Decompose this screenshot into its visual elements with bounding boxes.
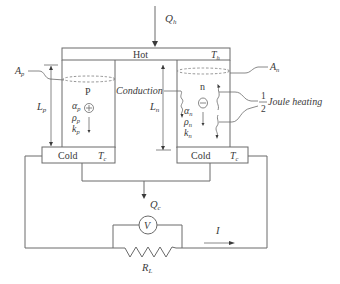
p-leg bbox=[62, 60, 115, 148]
joule-fraction-num: 1 bbox=[261, 91, 266, 101]
cold-side-connector bbox=[82, 163, 210, 181]
minus-carrier-icon bbox=[199, 98, 208, 108]
circuit-wire-right bbox=[183, 156, 267, 248]
joule-fraction-den: 2 bbox=[261, 104, 266, 114]
heat-out-arrow bbox=[142, 181, 147, 199]
conduction-leader bbox=[164, 91, 183, 116]
n-area-leader bbox=[230, 67, 268, 73]
p-alpha: αp bbox=[72, 100, 81, 112]
hot-label: Hot bbox=[133, 49, 148, 60]
joule-heating-label: Joule heating bbox=[268, 96, 322, 107]
n-leg-label: n bbox=[200, 81, 205, 92]
current-arrow bbox=[204, 241, 235, 245]
n-area-label: An bbox=[269, 61, 279, 73]
p-current-arrow bbox=[88, 117, 91, 133]
joule-leader-top bbox=[219, 92, 258, 101]
p-leg-label: P bbox=[85, 86, 91, 97]
heat-in-label: Qh bbox=[165, 12, 177, 26]
n-length-label: Ln bbox=[149, 101, 160, 114]
plus-carrier-icon bbox=[85, 104, 94, 113]
voltmeter-wire-right bbox=[157, 225, 182, 248]
joule-arrowhead-down bbox=[216, 135, 219, 139]
load-resistor-icon bbox=[125, 247, 183, 257]
current-label: I bbox=[215, 225, 220, 236]
voltmeter-wire-left bbox=[113, 225, 139, 248]
p-area-leader bbox=[28, 71, 64, 80]
voltmeter-label: V bbox=[144, 220, 152, 231]
load-resistor-label: RL bbox=[141, 262, 152, 275]
joule-squiggle-up bbox=[217, 87, 219, 110]
cold-right-label: Cold bbox=[191, 150, 210, 161]
joule-leader-bottom bbox=[219, 106, 258, 122]
joule-squiggle-down bbox=[216, 115, 218, 137]
p-area-label: Ap bbox=[14, 65, 25, 77]
joule-arrowhead-up bbox=[218, 84, 221, 88]
heat-in-arrow bbox=[152, 6, 158, 47]
heat-out-label: Qc bbox=[150, 199, 162, 212]
p-k: kp bbox=[72, 123, 80, 135]
n-current-arrow bbox=[202, 112, 205, 126]
p-length-label: Lp bbox=[36, 101, 47, 114]
cold-left-label: Cold bbox=[58, 150, 77, 161]
conduction-label: Conduction bbox=[116, 85, 163, 96]
thermoelectric-diagram: Qh Hot Th P αp ρp kp Ap Lp Conduction bbox=[0, 0, 340, 284]
n-k: kn bbox=[184, 127, 192, 139]
circuit-wire-left bbox=[25, 156, 125, 248]
